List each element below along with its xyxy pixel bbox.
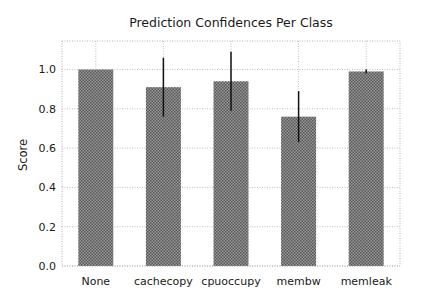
y-tick-labels: 0.00.20.40.60.81.0	[39, 63, 57, 273]
x-tick-label: membw	[277, 275, 321, 288]
bar-chart: Prediction Confidences Per Class Score 0…	[0, 0, 424, 300]
x-tick-label: cpuoccupy	[201, 275, 261, 288]
y-tick-label: 0.4	[39, 181, 57, 194]
y-tick-label: 0.8	[39, 103, 57, 116]
y-tick-label: 0.6	[39, 142, 57, 155]
x-tick-labels: Nonecachecopycpuoccupymembwmemleak	[81, 275, 392, 288]
bar-memleak	[349, 71, 384, 266]
x-tick-label: cachecopy	[134, 275, 193, 288]
y-tick-label: 0.0	[39, 260, 57, 273]
y-tick-label: 1.0	[39, 63, 57, 76]
error-bars	[163, 52, 366, 142]
bar-none	[78, 69, 113, 266]
x-tick-label: None	[81, 275, 110, 288]
y-tick-label: 0.2	[39, 221, 57, 234]
x-tick-label: memleak	[341, 275, 393, 288]
chart-title: Prediction Confidences Per Class	[129, 15, 333, 30]
y-axis-label: Score	[16, 139, 30, 171]
